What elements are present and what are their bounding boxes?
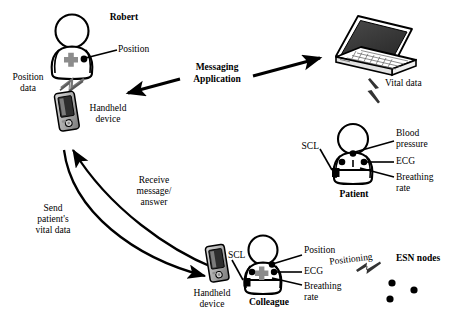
lightning-vital-data <box>368 78 381 104</box>
diagram-graphics <box>0 0 457 318</box>
label-ecg-colleague: ECG <box>304 266 362 277</box>
label-colleague: Colleague <box>240 297 298 308</box>
label-position-robert: Position <box>118 44 178 55</box>
actor-robert <box>52 15 117 80</box>
label-ecg-patient: ECG <box>396 156 454 167</box>
label-handheld-colleague-line2: device <box>182 299 242 310</box>
scl-module-patient <box>332 168 340 177</box>
esn-node-dot <box>410 286 417 293</box>
label-position-data-line1: Position <box>2 72 54 83</box>
sensor-dot-ecg-colleague-left <box>249 269 255 275</box>
label-handheld-colleague-line1: Handheld <box>182 288 242 299</box>
actor-colleague <box>232 236 302 295</box>
label-receive-line3: answer <box>122 197 186 208</box>
esn-node-dot <box>386 295 393 302</box>
label-send-line1: Send <box>22 203 84 214</box>
label-messaging-line2: Application <box>180 74 254 85</box>
arrow-messaging-to-handheld <box>128 79 180 93</box>
label-send-line2: patient's <box>22 214 84 225</box>
label-esn-nodes: ESN nodes <box>396 253 457 264</box>
device-handheld-robert <box>54 91 80 132</box>
label-receive-line2: message/ <box>122 186 186 197</box>
arrow-receive-message <box>73 150 214 268</box>
label-breathing-colleague-line1: Breathing <box>304 281 364 292</box>
label-vital-data: Vital data <box>385 78 449 89</box>
label-blood-pressure-line1: Blood <box>396 128 454 139</box>
label-scl-patient: SCL <box>285 141 319 152</box>
device-laptop <box>336 16 416 75</box>
sensor-dot-position-colleague <box>269 261 275 267</box>
esn-node-dot <box>388 279 395 286</box>
label-handheld-robert-line1: Handheld <box>78 103 138 114</box>
sensor-dot-ecg-patient-left <box>339 159 346 166</box>
actor-patient <box>320 124 394 184</box>
label-send-line3: vital data <box>22 225 84 236</box>
label-position-data-line2: data <box>2 83 54 94</box>
label-robert: Robert <box>94 12 154 23</box>
scl-module-colleague <box>244 278 251 287</box>
diagram-canvas: Robert Position Position data Handheld d… <box>0 0 457 318</box>
label-breathing-rate-patient-line1: Breathing <box>396 172 456 183</box>
label-patient: Patient <box>331 189 377 200</box>
label-receive-line1: Receive <box>122 175 186 186</box>
arrow-messaging-to-laptop <box>253 58 320 76</box>
label-breathing-colleague-line2: rate <box>304 292 364 303</box>
label-blood-pressure-line2: pressure <box>396 139 454 150</box>
label-scl-colleague: SCL <box>228 250 258 261</box>
label-breathing-rate-patient-line2: rate <box>396 183 456 194</box>
position-sensor-dot-robert <box>81 56 88 63</box>
device-handheld-colleague <box>205 244 229 283</box>
label-handheld-robert-line2: device <box>78 114 138 125</box>
label-messaging-line1: Messaging <box>180 62 254 73</box>
esn-nodes-group <box>386 279 417 302</box>
